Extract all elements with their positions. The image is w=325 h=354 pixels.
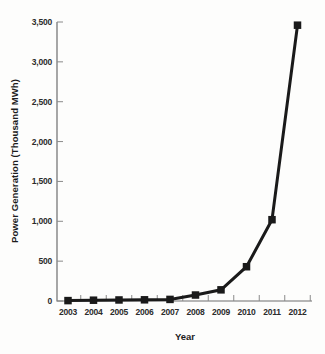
data-point-marker	[141, 296, 149, 304]
data-point-marker	[268, 216, 276, 224]
data-line	[68, 25, 298, 300]
y-tick-label: 3,500	[32, 17, 53, 27]
x-tick-label: 2004	[84, 307, 103, 317]
data-point-marker	[115, 296, 123, 304]
data-point-marker	[217, 286, 225, 294]
y-axis-title: Power Generation (Thousand MWh)	[9, 79, 20, 243]
x-tick-label: 2005	[110, 307, 129, 317]
y-tick-label: 1,000	[32, 216, 53, 226]
y-tick-label: 3,000	[32, 57, 53, 67]
y-tick-label: 2,500	[32, 97, 53, 107]
data-point-marker	[192, 291, 200, 299]
chart-plot-area: 05001,0001,5002,0002,5003,0003,500200320…	[0, 0, 325, 354]
x-tick-label: 2012	[288, 307, 307, 317]
data-point-marker	[166, 296, 174, 304]
x-tick-label: 2009	[212, 307, 231, 317]
x-axis-title: Year	[175, 331, 195, 342]
data-point-marker	[243, 263, 251, 271]
data-point-marker	[90, 296, 98, 304]
axis-lines	[57, 22, 312, 301]
x-tick-label: 2011	[263, 307, 281, 317]
y-tick-label: 0	[47, 296, 52, 306]
power-generation-line-chart: 05001,0001,5002,0002,5003,0003,500200320…	[0, 0, 325, 354]
x-tick-label: 2003	[59, 307, 78, 317]
x-tick-label: 2006	[135, 307, 154, 317]
data-point-marker	[64, 297, 72, 305]
y-tick-label: 2,000	[32, 137, 53, 147]
x-tick-label: 2008	[186, 307, 205, 317]
y-tick-label: 1,500	[32, 176, 53, 186]
data-point-marker	[294, 21, 302, 29]
x-tick-label: 2010	[237, 307, 256, 317]
y-tick-label: 500	[38, 256, 52, 266]
x-tick-label: 2007	[161, 307, 180, 317]
